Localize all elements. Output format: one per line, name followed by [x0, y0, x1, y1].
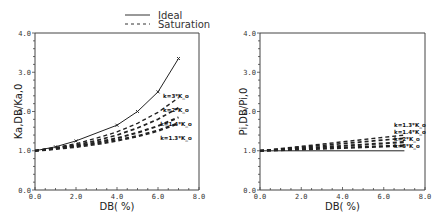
- x-tick-label: 4.0: [336, 193, 349, 201]
- y-tick-label: 3.0: [18, 69, 31, 77]
- series-annotation: k=1.4*K_o: [160, 121, 192, 128]
- series-annotation: k=1.4*K_o: [394, 129, 426, 136]
- legend-saturation-label: Saturation: [158, 19, 210, 30]
- x-tick-label: 6.0: [377, 193, 390, 201]
- data-marker: [136, 110, 139, 113]
- series-annotation: k=2*K_o: [163, 107, 189, 114]
- x-axis-label: DB( %): [325, 201, 360, 212]
- x-tick-label: 8.0: [419, 193, 432, 201]
- y-tick-label: 3.0: [243, 69, 256, 77]
- y-axis-label: Pi,DB/Pi,0: [238, 88, 249, 136]
- chart-figure: Ideal Saturation 0.01.02.03.04.00.02.04.…: [0, 0, 443, 221]
- y-tick-label: 1.0: [18, 147, 31, 155]
- x-tick-label: 2.0: [295, 193, 308, 201]
- data-marker: [177, 57, 180, 60]
- x-axis-label: DB( %): [99, 201, 134, 212]
- series-annotation: k=1.3*K_o: [160, 135, 192, 142]
- y-tick-label: 4.0: [243, 30, 256, 38]
- y-tick-label: 1.0: [243, 147, 256, 155]
- y-tick-label: 4.0: [18, 30, 31, 38]
- x-tick-label: 8.0: [193, 193, 206, 201]
- x-tick-label: 6.0: [152, 193, 165, 201]
- data-marker: [157, 90, 160, 93]
- x-tick-label: 4.0: [111, 193, 124, 201]
- series-annotation: k=2*K_o: [394, 136, 420, 143]
- series-annotation: k=1.3*K_o: [394, 122, 426, 129]
- x-tick-label: 0.0: [29, 193, 42, 201]
- series-annotation: k=3*K_o: [394, 143, 420, 150]
- series-annotation: k=3*K_o: [163, 93, 189, 100]
- x-tick-label: 2.0: [70, 193, 83, 201]
- x-tick-label: 0.0: [254, 193, 267, 201]
- y-axis-label: Ka,DB/Ka,0: [13, 84, 24, 140]
- chart-right: 0.01.02.03.04.00.02.04.06.08.0DB( %)Pi,D…: [238, 30, 431, 213]
- chart-left: 0.01.02.03.04.00.02.04.06.08.0DB( %)Ka,D…: [13, 30, 205, 213]
- legend: Ideal Saturation: [125, 10, 210, 30]
